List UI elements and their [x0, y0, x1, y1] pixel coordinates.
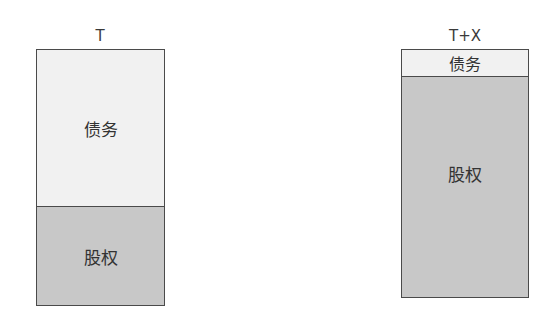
right-debt-segment: 债务 — [402, 50, 528, 76]
left-equity-label: 股权 — [84, 244, 118, 269]
left-equity-segment: 股权 — [37, 206, 164, 305]
right-debt-label: 债务 — [449, 51, 481, 75]
right-capital-structure-box: 债务 股权 — [401, 49, 529, 298]
left-column-label: T — [36, 27, 164, 45]
left-debt-segment: 债务 — [37, 50, 164, 206]
right-equity-segment: 股权 — [402, 76, 528, 297]
right-column-label: T+X — [401, 27, 529, 45]
left-debt-label: 债务 — [84, 116, 118, 141]
left-capital-structure-box: 债务 股权 — [36, 49, 165, 306]
right-equity-label: 股权 — [448, 161, 482, 186]
